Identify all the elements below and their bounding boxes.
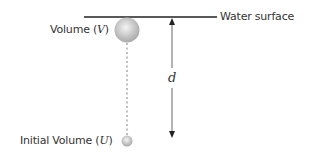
depth-label: d <box>168 70 176 85</box>
volume-label-prefix: Volume ( <box>50 23 97 36</box>
volume-label: Volume (V) <box>50 23 109 36</box>
initial-label-suffix: ) <box>109 134 113 147</box>
arrow-head-up-icon <box>169 18 175 25</box>
initial-label-prefix: Initial Volume ( <box>20 134 99 147</box>
arrow-head-down-icon <box>169 131 175 138</box>
initial-variable: U <box>99 134 108 147</box>
volume-sphere <box>115 18 140 43</box>
water-surface-label: Water surface <box>220 10 294 23</box>
volume-label-suffix: ) <box>105 23 109 36</box>
initial-volume-label: Initial Volume (U) <box>20 134 113 147</box>
initial-volume-sphere <box>122 136 133 147</box>
volume-variable: V <box>97 23 105 36</box>
